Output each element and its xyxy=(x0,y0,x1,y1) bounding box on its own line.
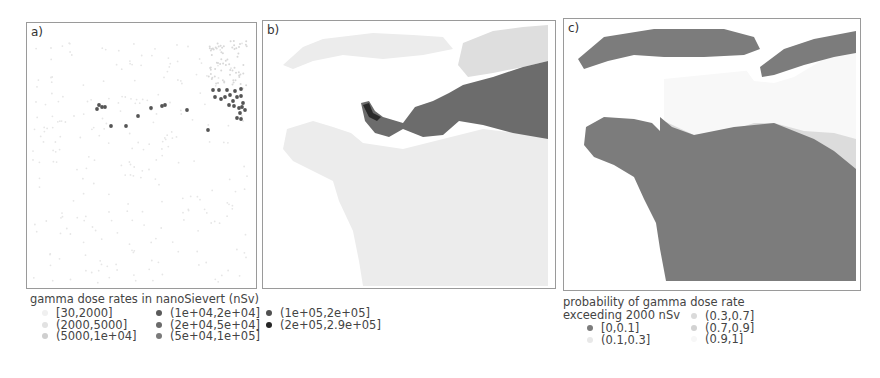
legend-swatch-icon xyxy=(691,336,697,342)
high-dose-point xyxy=(109,124,113,128)
legend-label: (0.9,1] xyxy=(705,333,743,346)
high-dose-point xyxy=(239,87,243,91)
high-dose-point xyxy=(136,114,140,118)
dose-map-svg xyxy=(263,21,556,289)
panel-c-probability-map: c) xyxy=(563,18,861,291)
legend-swatch-icon xyxy=(587,325,593,331)
panel-label-b: b) xyxy=(267,23,279,37)
legend-swatch-icon xyxy=(42,310,48,316)
legend-swatch-icon xyxy=(156,310,162,316)
france-zone xyxy=(584,117,856,281)
legend-swatch-icon xyxy=(156,322,162,328)
high-dose-point xyxy=(235,95,239,99)
high-dose-point xyxy=(185,108,189,112)
high-points-layer xyxy=(95,87,247,132)
legend-label: (5000,1e+04] xyxy=(56,330,137,343)
high-dose-point xyxy=(217,88,221,92)
high-dose-point xyxy=(231,99,235,103)
legend-swatch-icon xyxy=(42,322,48,328)
high-dose-point xyxy=(206,128,210,132)
prob-legend-title-line1: probability of gamma dose rate xyxy=(563,296,745,309)
high-dose-point xyxy=(232,104,236,108)
legend-label: (0.1,0.3] xyxy=(601,334,650,347)
dose-plume xyxy=(361,61,548,139)
legend-swatch-icon xyxy=(266,322,272,328)
high-dose-point xyxy=(211,88,215,92)
high-dose-point xyxy=(239,117,243,121)
high-dose-point xyxy=(223,95,227,99)
high-dose-point xyxy=(95,107,99,111)
legend-label: (5e+04,1e+05] xyxy=(170,330,260,343)
high-dose-point xyxy=(241,101,245,105)
probability-map-svg xyxy=(564,19,861,291)
legend-swatch-icon xyxy=(587,337,593,343)
panel-label-c: c) xyxy=(568,21,579,35)
high-dose-point xyxy=(213,95,217,99)
high-dose-point xyxy=(233,89,237,93)
point-map-svg xyxy=(27,23,257,289)
high-dose-point xyxy=(239,94,243,98)
high-dose-point xyxy=(163,103,167,107)
high-dose-point xyxy=(149,106,153,110)
panel-label-a: a) xyxy=(31,25,43,39)
high-dose-point xyxy=(103,105,107,109)
legend-swatch-icon xyxy=(42,333,48,339)
high-dose-point xyxy=(219,97,223,101)
france-landmass xyxy=(283,121,548,286)
legend-swatch-icon xyxy=(691,313,697,319)
legend-swatch-icon xyxy=(156,333,162,339)
high-dose-point xyxy=(240,105,244,109)
high-dose-point xyxy=(225,88,229,92)
high-dose-point xyxy=(124,124,128,128)
dose-legend-title: gamma dose rates in nanoSievert (nSv) xyxy=(30,293,259,306)
panel-a-point-map: a) xyxy=(26,22,257,289)
probability-legend: probability of gamma dose rate exceeding… xyxy=(563,296,745,321)
high-dose-point xyxy=(235,116,239,120)
high-dose-point xyxy=(227,103,231,107)
high-dose-point xyxy=(243,108,247,112)
uk-zone xyxy=(578,29,760,69)
high-dose-point xyxy=(228,93,232,97)
legend-swatch-icon xyxy=(266,310,272,316)
faint-points-layer xyxy=(32,40,248,284)
legend-swatch-icon xyxy=(691,325,697,331)
high-dose-point xyxy=(238,111,242,115)
uk-landmass xyxy=(283,33,453,69)
panel-b-dose-map: b) xyxy=(262,20,556,289)
legend-label: (2e+05,2.9e+05] xyxy=(280,319,381,332)
dose-rate-legend: gamma dose rates in nanoSievert (nSv) [3… xyxy=(30,293,259,306)
